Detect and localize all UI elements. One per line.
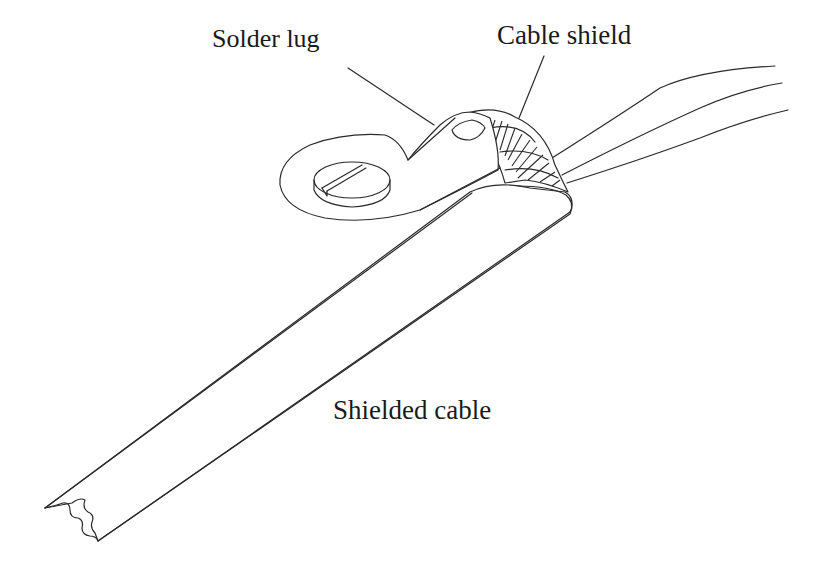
label-cable-shield: Cable shield (497, 22, 631, 49)
leader-solder-lug (348, 68, 434, 125)
shielded-cable-body (45, 185, 572, 541)
label-shielded-cable: Shielded cable (333, 397, 491, 424)
leader-cable-shield (519, 56, 544, 118)
label-solder-lug: Solder lug (212, 26, 320, 52)
diagram-canvas: Solder lug Cable shield Shielded cable (0, 0, 827, 565)
cable-illustration (0, 0, 827, 565)
inner-conductors (552, 66, 788, 183)
